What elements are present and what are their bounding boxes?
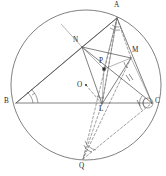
segment-A-to-L-thin [102, 18, 117, 104]
angle-mark-at-M [124, 62, 128, 68]
segment-PA [104, 18, 117, 69]
point-label-A: A [114, 2, 119, 9]
point-marker-P [102, 67, 105, 70]
point-label-M: M [132, 47, 138, 54]
segment-NC [82, 47, 152, 103]
point-markers [85, 67, 106, 86]
segment-OL-dashed [86, 85, 102, 104]
tick-mark-hash-right-b [129, 74, 133, 80]
segment-QC-dashed [83, 103, 152, 159]
angle-mark-at-B-outer [31, 89, 38, 103]
segment-BN [16, 47, 82, 103]
segment-NL [82, 47, 102, 104]
geometry-canvas [0, 0, 166, 176]
segment-N-extension [61, 24, 82, 47]
point-marker-O [85, 84, 87, 86]
point-label-Q: Q [79, 163, 84, 170]
point-label-L: L [99, 106, 103, 113]
tick-mark-hash-right-a [126, 75, 130, 81]
angle-mark-at-B-tick [32, 93, 35, 95]
point-label-O: O [77, 82, 82, 89]
point-label-N: N [73, 37, 78, 44]
tick-marks-group [126, 74, 140, 106]
triangle-NML [82, 47, 131, 104]
point-label-B: B [4, 98, 9, 105]
triangle-ABC [16, 18, 152, 103]
point-label-C: C [155, 98, 160, 105]
segment-MQ-dashed [83, 58, 131, 159]
cevian-lines [82, 18, 152, 104]
segment-AC [117, 18, 152, 103]
segment-NA [82, 18, 117, 47]
angle-mark-at-B-inner [27, 92, 33, 103]
angle-mark-at-Q-outer [85, 141, 96, 150]
point-label-P: P [99, 58, 103, 65]
geometry-figure: A B C N M L P O Q [0, 0, 166, 176]
dashed-construction-lines [83, 18, 152, 159]
segment-ML [102, 58, 131, 104]
